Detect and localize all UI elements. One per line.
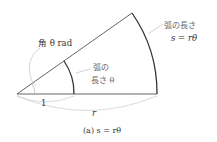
radius-label: r xyxy=(92,108,97,118)
radius-brace xyxy=(17,96,157,111)
outer-arc-label-2: s = rθ xyxy=(171,33,197,43)
sector-diagram: 角 θ rad 弧の 長さ θ 弧の長さ s = rθ 1 r (a) s = … xyxy=(0,0,217,142)
caption: (a) s = rθ xyxy=(83,126,121,135)
angle-label: 角 θ rad xyxy=(38,38,73,48)
unit-radius-label: 1 xyxy=(41,98,46,108)
inner-arc-pointer xyxy=(76,69,90,73)
inner-arc-label-2: 長さ θ xyxy=(91,76,115,85)
outer-arc-pointer xyxy=(148,24,163,34)
outer-arc xyxy=(132,13,157,94)
inner-arc xyxy=(64,61,74,94)
angle-pointer xyxy=(29,48,40,86)
outer-arc-label-1: 弧の長さ xyxy=(164,20,196,30)
inner-arc-label-1: 弧の xyxy=(93,62,109,72)
angle-arc xyxy=(32,84,35,94)
